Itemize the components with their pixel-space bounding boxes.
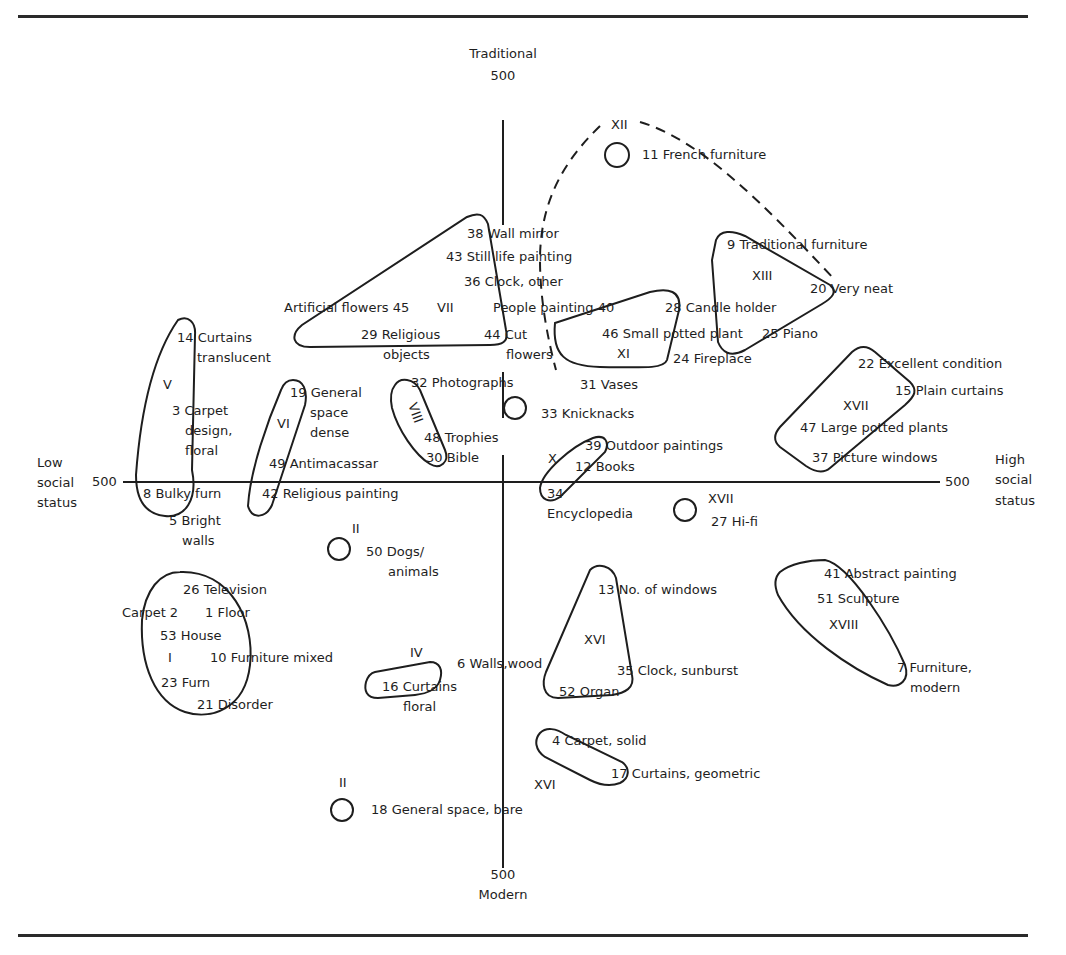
item-3-line3: floral <box>185 443 218 459</box>
cluster-label-v: V <box>163 377 172 393</box>
cluster-label-iv: IV <box>410 645 423 661</box>
item-19-line2: space <box>310 405 348 421</box>
cluster-label-vii: VII <box>437 300 454 316</box>
item-46: 46 Small potted plant <box>602 326 743 342</box>
item-19-line3: dense <box>310 425 349 441</box>
item-35: 35 Clock, sunburst <box>617 663 738 679</box>
item-24: 24 Fireplace <box>673 351 752 367</box>
item-21: 21 Disorder <box>197 697 273 713</box>
item-3-line2: design, <box>185 423 232 439</box>
x-axis-right-title-3: status <box>995 493 1035 509</box>
plot-canvas <box>0 0 1066 955</box>
item-2: Carpet 2 <box>122 605 178 621</box>
cluster-label-xvi-a: XVI <box>584 632 606 648</box>
cluster-label-xviii: XVIII <box>829 617 858 633</box>
item-37: 37 Picture windows <box>812 450 938 466</box>
cluster-label-xi: XI <box>617 346 630 362</box>
item-47: 47 Large potted plants <box>800 420 948 436</box>
cluster-label-ii-a: II <box>352 521 360 537</box>
item-12: 12 Books <box>575 459 635 475</box>
item-44-line2: flowers <box>506 347 553 363</box>
item-34-line1: 34 <box>547 486 564 502</box>
item-29-line1: 29 Religious <box>361 327 440 343</box>
item-31: 31 Vases <box>580 377 638 393</box>
item-10: 10 Furniture mixed <box>210 650 333 666</box>
item-32: 32 Photographs <box>411 375 514 391</box>
item-50-line2: animals <box>388 564 439 580</box>
item-29-line2: objects <box>383 347 430 363</box>
point-11-circle <box>605 143 629 167</box>
item-51: 51 Sculpture <box>817 591 900 607</box>
item-1: 1 Floor <box>205 605 250 621</box>
item-7-line2: modern <box>910 680 960 696</box>
item-43: 43 Still life painting <box>446 249 572 265</box>
point-18-circle <box>331 799 353 821</box>
item-40: People painting 40 <box>493 300 614 316</box>
item-18: 18 General space, bare <box>371 802 523 818</box>
item-48: 48 Trophies <box>424 430 499 446</box>
item-11: 11 French furniture <box>642 147 766 163</box>
item-39: 39 Outdoor paintings <box>585 438 723 454</box>
cluster-label-xiii: XIII <box>752 268 772 284</box>
item-7-line1: 7 Furniture, <box>897 660 972 676</box>
item-53: 53 House <box>160 628 221 644</box>
item-5-line2: walls <box>182 533 215 549</box>
item-15: 15 Plain curtains <box>895 383 1004 399</box>
cluster-label-ii-b: II <box>339 775 347 791</box>
item-5-line1: 5 Bright <box>169 513 221 529</box>
y-axis-top-title: Traditional <box>440 44 566 64</box>
item-17: 17 Curtains, geometric <box>611 766 760 782</box>
x-axis-left-title-2: social <box>37 475 74 491</box>
cluster-label-x: X <box>548 451 557 467</box>
item-45: Artificial flowers 45 <box>284 300 409 316</box>
item-16-line1: 16 Curtains <box>382 679 457 695</box>
item-52: 52 Organ <box>559 684 619 700</box>
x-axis-right-title-2: social <box>995 472 1032 488</box>
item-26: 26 Television <box>183 582 267 598</box>
item-25: 25 Piano <box>762 326 818 342</box>
item-33: 33 Knicknacks <box>541 406 634 422</box>
item-20: 20 Very neat <box>810 281 893 297</box>
item-16-line2: floral <box>403 699 436 715</box>
item-30: 30 Bible <box>426 450 479 466</box>
item-4: 4 Carpet, solid <box>552 733 647 749</box>
y-axis-top-tick: 500 <box>440 66 566 86</box>
item-28: 28 Candle holder <box>665 300 776 316</box>
cluster-label-xvii-b: XVII <box>708 491 733 507</box>
x-axis-left-tick: 500 <box>92 474 117 490</box>
item-9: 9 Traditional furniture <box>727 237 867 253</box>
item-14-line2: translucent <box>197 350 271 366</box>
item-44-line1: 44 Cut <box>484 327 527 343</box>
item-19-line1: 19 General <box>290 385 362 401</box>
item-22: 22 Excellent condition <box>858 356 1002 372</box>
x-axis-right-tick: 500 <box>945 474 970 490</box>
cluster-label-i: I <box>168 650 172 666</box>
x-axis-right-title-1: High <box>995 452 1025 468</box>
item-42: 42 Religious painting <box>262 486 399 502</box>
x-axis-left-title-1: Low <box>37 455 63 471</box>
item-3-line1: 3 Carpet <box>172 403 228 419</box>
item-34-line2: Encyclopedia <box>547 506 633 522</box>
item-36: 36 Clock, other <box>464 274 563 290</box>
cluster-label-xvii-a: XVII <box>843 398 868 414</box>
item-50-line1: 50 Dogs/ <box>366 544 424 560</box>
item-13: 13 No. of windows <box>598 582 717 598</box>
item-27: 27 Hi-fi <box>711 514 758 530</box>
cluster-label-vi: VI <box>277 416 290 432</box>
point-50-circle <box>328 538 350 560</box>
item-6: 6 Walls,wood <box>457 656 542 672</box>
item-14-line1: 14 Curtains <box>177 330 252 346</box>
x-axis-left-title-3: status <box>37 495 77 511</box>
cluster-label-xii: XII <box>611 117 628 133</box>
point-33-circle <box>504 397 526 419</box>
item-23: 23 Furn <box>161 675 210 691</box>
item-8: 8 Bulky furn <box>143 486 221 502</box>
point-27-circle <box>674 499 696 521</box>
item-38: 38 Wall mirror <box>467 226 559 242</box>
cluster-label-xvi-b: XVI <box>534 777 556 793</box>
y-axis-bottom-tick: 500 <box>440 865 566 885</box>
item-49: 49 Antimacassar <box>269 456 378 472</box>
y-axis-bottom-title: Modern <box>440 885 566 905</box>
item-41: 41 Abstract painting <box>824 566 957 582</box>
